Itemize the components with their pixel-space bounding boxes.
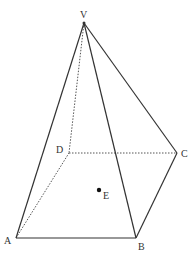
point-E-dot (97, 188, 101, 192)
edge-VA (16, 23, 84, 238)
label-E: E (103, 190, 109, 201)
label-B: B (138, 241, 145, 252)
label-D: D (56, 144, 63, 155)
edge-VC (84, 23, 177, 153)
label-C: C (181, 148, 188, 159)
edge-VD (69, 23, 84, 153)
apex-dot (83, 22, 86, 25)
pyramid-diagram: V A B C D E (0, 0, 196, 258)
edge-VB (84, 23, 136, 238)
label-V: V (80, 9, 88, 20)
label-A: A (4, 235, 12, 246)
edge-AD (16, 153, 69, 238)
edge-BC (136, 153, 177, 238)
